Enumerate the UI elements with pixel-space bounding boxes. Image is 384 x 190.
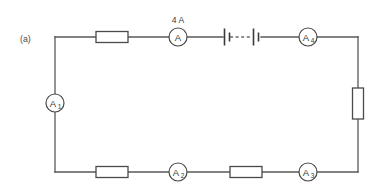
ammeter-a-label: A bbox=[175, 32, 182, 43]
ammeter-a4: A 4 bbox=[299, 28, 317, 46]
ammeter-a1: A 1 bbox=[46, 94, 64, 112]
ammeter-a2: A 2 bbox=[169, 163, 187, 181]
ammeter-a2-subscript: 2 bbox=[181, 172, 185, 179]
ammeter-a3-label: A bbox=[303, 167, 310, 178]
resistor-bottom-right bbox=[230, 167, 262, 178]
current-annotation: 4 A bbox=[172, 15, 185, 25]
ammeter-a3: A 3 bbox=[299, 163, 317, 181]
panel-label: (a) bbox=[20, 34, 31, 44]
resistor-right bbox=[353, 88, 364, 119]
figure-canvas: A 4 A A 1 A 2 A 3 A 4 (a) bbox=[0, 0, 384, 190]
resistor-bottom-left bbox=[96, 167, 128, 178]
ammeter-a4-label: A bbox=[303, 32, 310, 43]
ammeter-a3-subscript: 3 bbox=[311, 172, 315, 179]
battery-symbol bbox=[225, 29, 259, 46]
ammeter-a4-subscript: 4 bbox=[311, 37, 315, 44]
ammeter-a1-subscript: 1 bbox=[58, 103, 62, 110]
resistor-top-left bbox=[96, 32, 128, 43]
circuit-diagram: A 4 A A 1 A 2 A 3 A 4 (a) bbox=[0, 0, 384, 190]
ammeter-a1-label: A bbox=[50, 98, 57, 109]
ammeter-a2-label: A bbox=[173, 167, 180, 178]
ammeter-a: A bbox=[169, 28, 187, 46]
